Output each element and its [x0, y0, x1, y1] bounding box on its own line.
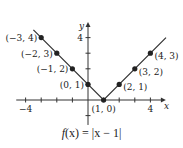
x-tick-label: 4 — [148, 104, 154, 114]
y-axis-arrow-icon — [86, 22, 91, 27]
caption-expression: (x) = |x − 1| — [65, 126, 121, 140]
point-label: (−2, 3) — [21, 49, 53, 59]
point-labels: (−3, 4)(−2, 3)(−1, 2)(0, 1)(1, 0)(2, 1)(… — [5, 33, 178, 114]
chart-caption: f(x) = |x − 1| — [0, 126, 183, 141]
point-label: (−1, 2) — [37, 64, 69, 74]
data-point — [85, 82, 90, 87]
x-axis-label: x — [164, 101, 169, 111]
data-point — [132, 66, 137, 71]
x-tick-label: −4 — [19, 104, 33, 114]
point-label: (−3, 4) — [5, 33, 37, 43]
point-label: (1, 0) — [91, 104, 115, 114]
point-label: (4, 3) — [154, 51, 178, 61]
point-label: (2, 1) — [123, 82, 147, 92]
data-point — [117, 82, 122, 87]
point-label: (3, 2) — [139, 67, 163, 77]
data-point — [148, 51, 153, 56]
data-point — [54, 51, 59, 56]
point-label: (0, 1) — [60, 80, 84, 90]
y-axis-label: y — [78, 21, 85, 31]
data-point — [101, 97, 106, 102]
data-point — [70, 66, 75, 71]
y-tick-label: 4 — [77, 33, 83, 43]
data-point — [39, 35, 44, 40]
